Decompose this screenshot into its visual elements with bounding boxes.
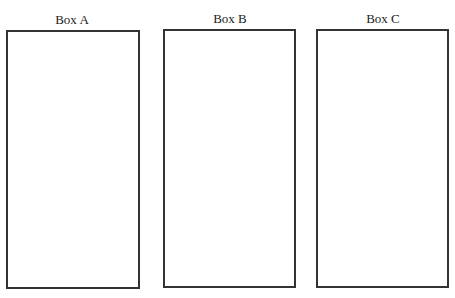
box-c-label: Box C bbox=[316, 12, 450, 26]
box-c bbox=[316, 29, 449, 288]
box-a bbox=[6, 30, 140, 289]
box-b bbox=[163, 29, 296, 288]
box-b-label: Box B bbox=[163, 12, 297, 26]
box-a-label: Box A bbox=[5, 13, 139, 27]
